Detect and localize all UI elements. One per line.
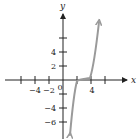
y-tick-label: 2 <box>51 62 56 71</box>
origin-label: 0 <box>57 83 62 92</box>
y-tick-label: −4 <box>44 104 56 113</box>
function-curve <box>70 22 99 135</box>
x-axis-label: x <box>131 75 136 85</box>
function-graph: −4 −2 0 4 4 2 −4 −6 x y <box>0 0 140 139</box>
x-tick-label: −2 <box>43 86 55 95</box>
y-axis-label: y <box>59 1 66 11</box>
y-tick-label: −6 <box>44 118 56 127</box>
x-tick-label: −4 <box>29 86 41 95</box>
y-tick-label: 4 <box>51 48 56 57</box>
x-tick-label: 4 <box>89 86 94 95</box>
